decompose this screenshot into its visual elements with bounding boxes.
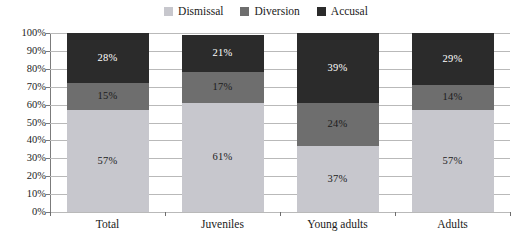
bar-segment[interactable]: 39% [297, 33, 379, 103]
legend-label-diversion: Diversion [254, 6, 299, 18]
y-axis-tick-label: 0% [2, 207, 46, 218]
bar-group[interactable]: 37%24%39% [297, 33, 379, 212]
bar-segment-label: 57% [443, 156, 463, 167]
x-axis-category-label: Young adults [278, 216, 398, 233]
bar-series-container: 57%15%28%61%17%21%37%24%39%57%14%29% [50, 33, 510, 212]
y-axis-tick-label: 50% [2, 118, 46, 129]
bar-segment[interactable]: 29% [412, 33, 494, 85]
bar-segment-label: 57% [98, 156, 118, 167]
bar-segment[interactable]: 57% [67, 110, 149, 212]
bar-segment-label: 17% [213, 82, 233, 93]
y-axis-tick-label: 80% [2, 64, 46, 75]
x-axis-category-label: Total [48, 216, 168, 233]
bar-segment[interactable]: 21% [182, 35, 264, 73]
bar-segment-label: 15% [98, 91, 118, 102]
bar-segment-label: 24% [328, 119, 348, 130]
y-axis-tick-label: 30% [2, 153, 46, 164]
x-axis-labels: TotalJuvenilesYoung adultsAdults [50, 216, 510, 240]
legend-swatch-accusal [317, 7, 326, 16]
bar-segment[interactable]: 57% [412, 110, 494, 212]
bar-segment[interactable]: 14% [412, 85, 494, 110]
y-axis-tick-label: 90% [2, 46, 46, 57]
legend-label-accusal: Accusal [331, 6, 368, 18]
plot-area: 57%15%28%61%17%21%37%24%39%57%14%29% [50, 33, 510, 212]
bar-group[interactable]: 57%14%29% [412, 33, 494, 212]
y-axis-tick-label: 40% [2, 135, 46, 146]
bar-segment[interactable]: 17% [182, 72, 264, 102]
x-axis-tick [50, 212, 51, 216]
legend-item-accusal[interactable]: Accusal [317, 6, 368, 18]
chart-legend: Dismissal Diversion Accusal [0, 6, 532, 18]
legend-swatch-diversion [240, 7, 249, 16]
legend-item-diversion[interactable]: Diversion [240, 6, 299, 18]
x-axis-tick [280, 212, 281, 216]
bar-segment-label: 61% [213, 152, 233, 163]
bar-segment[interactable]: 28% [67, 33, 149, 83]
stacked-bar-chart: Dismissal Diversion Accusal 100%90%80%70… [0, 0, 532, 244]
bar-group[interactable]: 57%15%28% [67, 33, 149, 212]
legend-swatch-dismissal [164, 7, 173, 16]
y-axis-tick-label: 70% [2, 82, 46, 93]
y-axis-labels: 100%90%80%70%60%50%40%30%20%10%0% [0, 33, 46, 213]
bar-group[interactable]: 61%17%21% [182, 33, 264, 212]
bar-segment-label: 29% [443, 54, 463, 65]
y-axis-tick-label: 60% [2, 100, 46, 111]
x-axis-category-label: Juveniles [163, 216, 283, 233]
x-axis-category-label: Adults [393, 216, 513, 233]
bar-segment-label: 37% [328, 174, 348, 185]
bar-segment-label: 14% [443, 92, 463, 103]
y-axis-tick-label: 10% [2, 189, 46, 200]
y-axis-tick-label: 100% [2, 28, 46, 39]
bar-segment-label: 28% [98, 53, 118, 64]
legend-label-dismissal: Dismissal [178, 6, 223, 18]
x-axis-tick [395, 212, 396, 216]
bar-segment[interactable]: 24% [297, 103, 379, 146]
bar-segment-label: 39% [328, 63, 348, 74]
bar-segment[interactable]: 37% [297, 146, 379, 212]
x-axis-tick [165, 212, 166, 216]
bar-segment-label: 21% [213, 48, 233, 59]
y-axis-tick-label: 20% [2, 171, 46, 182]
x-axis-tick [510, 212, 511, 216]
legend-item-dismissal[interactable]: Dismissal [164, 6, 223, 18]
bar-segment[interactable]: 61% [182, 103, 264, 212]
bar-segment[interactable]: 15% [67, 83, 149, 110]
